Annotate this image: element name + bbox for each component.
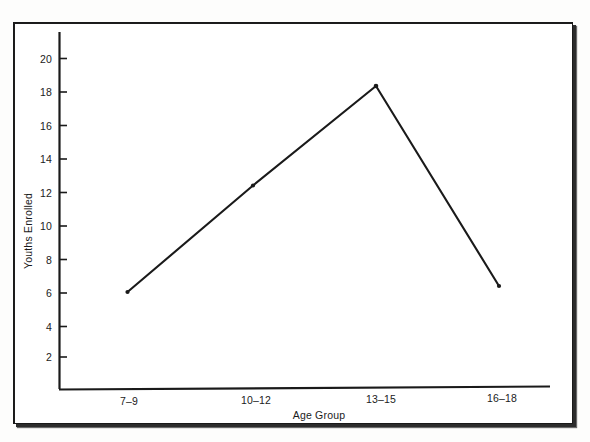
- line-chart: 20 18 16 14 12 10 8 6 4 2 Youths Enrolle…: [0, 0, 590, 442]
- y-axis-ticks: [60, 59, 67, 358]
- x-tick-label-10-12: 10–12: [241, 394, 271, 406]
- y-tick-label-18: 18: [30, 86, 52, 98]
- y-tick-label-16: 16: [30, 120, 52, 132]
- y-axis-title: Youths Enrolled: [22, 193, 34, 269]
- x-tick-label-7-9: 7–9: [120, 395, 138, 407]
- data-series-line: [128, 86, 500, 292]
- x-axis-line: [59, 387, 550, 390]
- data-point-marker: [374, 84, 379, 89]
- x-axis-title: Age Group: [293, 409, 346, 421]
- data-point-marker: [251, 183, 255, 187]
- y-tick-label-4: 4: [30, 321, 52, 333]
- data-point-marker: [125, 290, 129, 294]
- chart-canvas: [0, 0, 590, 442]
- y-tick-label-6: 6: [30, 287, 52, 299]
- y-tick-label-14: 14: [30, 153, 52, 165]
- x-tick-label-13-15: 13–15: [366, 393, 396, 405]
- y-tick-label-20: 20: [30, 53, 52, 65]
- x-tick-label-16-18: 16–18: [487, 392, 517, 404]
- data-point-markers: [125, 84, 501, 294]
- y-tick-label-2: 2: [30, 351, 52, 363]
- data-point-marker: [497, 284, 501, 288]
